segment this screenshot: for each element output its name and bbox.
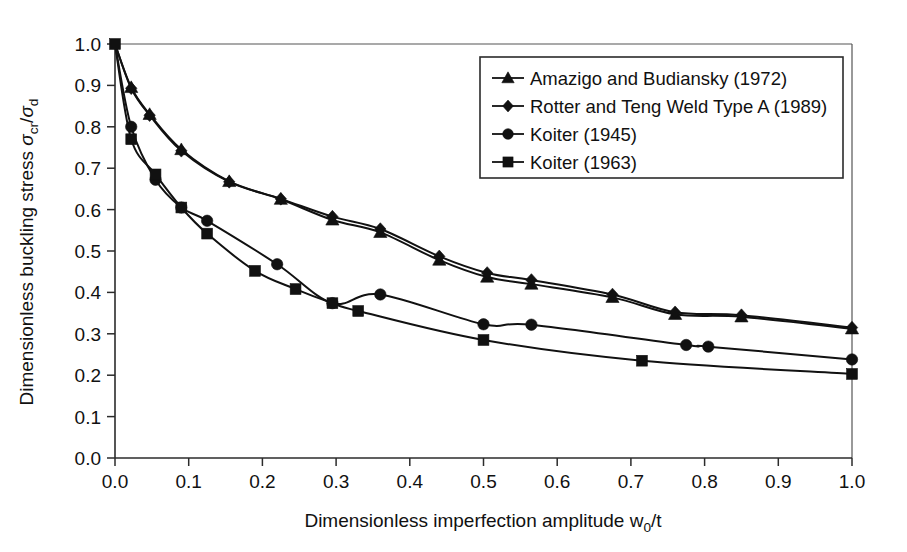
x-tick-label: 0.1 <box>175 471 201 492</box>
x-tick-label: 0.2 <box>249 471 275 492</box>
y-tick-label: 0.5 <box>75 241 101 262</box>
square-marker <box>176 202 187 213</box>
y-tick-label: 0.7 <box>75 158 101 179</box>
y-tick-label: 0.3 <box>75 324 101 345</box>
y-axis-title-sub-cr: cr <box>26 122 41 134</box>
square-marker <box>503 157 513 167</box>
x-tick-label: 0.3 <box>323 471 349 492</box>
y-tick-label: 0.1 <box>75 407 101 428</box>
y-tick-label: 0.8 <box>75 117 101 138</box>
x-axis-title-suffix: /t <box>651 510 662 531</box>
y-tick-label: 0.6 <box>75 200 101 221</box>
square-marker <box>478 335 489 346</box>
y-tick-label: 0.2 <box>75 365 101 386</box>
legend-entry[interactable]: Amazigo and Budiansky (1972) <box>492 68 787 89</box>
y-tick-label: 0.4 <box>75 282 102 303</box>
square-marker <box>353 306 364 317</box>
square-marker <box>126 134 137 145</box>
y-axis-title-prefix: Dimensionless buckling stress <box>16 146 37 406</box>
square-marker <box>250 265 261 276</box>
square-marker <box>290 284 301 295</box>
square-marker <box>327 298 338 309</box>
chart-figure: 0.00.10.20.30.40.50.60.70.80.91.0 0.00.1… <box>0 0 907 552</box>
x-tick-label: 0.5 <box>470 471 496 492</box>
legend-label: Amazigo and Budiansky (1972) <box>530 68 787 89</box>
legend-label: Koiter (1963) <box>530 152 637 173</box>
square-marker <box>847 369 858 380</box>
x-axis-title-prefix: Dimensionless imperfection amplitude w <box>304 510 643 531</box>
circle-marker <box>375 289 386 300</box>
circle-marker <box>846 354 857 365</box>
circle-marker <box>703 341 714 352</box>
x-tick-label: 1.0 <box>839 471 865 492</box>
x-tick-label: 0.9 <box>765 471 791 492</box>
x-tick-label: 0.6 <box>544 471 570 492</box>
y-tick-label: 0.9 <box>75 75 101 96</box>
buckling-stress-line-chart: 0.00.10.20.30.40.50.60.70.80.91.0 0.00.1… <box>0 0 907 552</box>
x-tick-label: 0.7 <box>618 471 644 492</box>
y-tick-label: 1.0 <box>75 34 101 55</box>
x-tick-label: 0.4 <box>397 471 424 492</box>
legend-label: Koiter (1945) <box>530 124 637 145</box>
circle-marker <box>478 319 489 330</box>
x-tick-label: 0.8 <box>691 471 717 492</box>
square-marker <box>150 169 161 180</box>
chart-legend: Amazigo and Budiansky (1972)Rotter and T… <box>480 57 843 178</box>
x-tick-label: 0.0 <box>102 471 128 492</box>
circle-marker <box>201 215 212 226</box>
square-marker <box>110 39 121 50</box>
legend-label: Rotter and Teng Weld Type A (1989) <box>530 96 827 117</box>
circle-marker <box>503 129 514 140</box>
square-marker <box>637 355 648 366</box>
legend-entry[interactable]: Rotter and Teng Weld Type A (1989) <box>492 96 827 117</box>
circle-marker <box>680 339 691 350</box>
circle-marker <box>271 259 282 270</box>
y-axis-title-sub-d: d <box>26 99 41 107</box>
circle-marker <box>526 319 537 330</box>
square-marker <box>202 228 213 239</box>
y-tick-label: 0.0 <box>75 448 101 469</box>
